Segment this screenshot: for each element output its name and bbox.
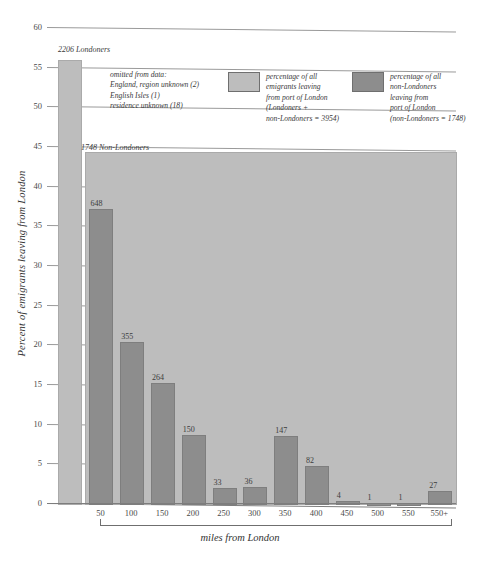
x-tick-50: 50 (85, 508, 115, 518)
omitted-line-3: residence unknown (18) (110, 101, 199, 111)
legend0-line3: from port of London (266, 93, 339, 103)
x-tick-150: 150 (147, 508, 177, 518)
bar-200 (182, 435, 206, 505)
x-tick-250: 250 (209, 508, 239, 518)
x-tick-100: 100 (116, 508, 146, 518)
gridline-60 (47, 27, 456, 32)
y-tick-10: 10 (20, 419, 42, 429)
legend-label-all-emigrants: percentage of all emigrants leaving from… (266, 72, 339, 124)
bar-value-500: 1 (368, 493, 372, 502)
legend1-line3: leaving from (390, 93, 466, 103)
x-tick-200: 200 (178, 508, 208, 518)
legend-swatch-all-emigrants (228, 72, 260, 92)
omitted-line-1: England, region unknown (2) (110, 80, 199, 90)
bar-value-250: 33 (214, 478, 222, 487)
bar-value-100: 355 (121, 332, 133, 341)
y-tick-5: 5 (20, 458, 42, 468)
y-tick-50: 50 (20, 101, 42, 111)
bar-50 (89, 209, 113, 505)
plot-area: 051015202530354045505560 648355264150333… (0, 0, 478, 561)
omitted-from-data-note: omitted from data: England, region unkno… (110, 70, 199, 112)
y-tick-60: 60 (20, 22, 42, 32)
legend0-line4: (Londoners + (266, 103, 339, 113)
y-axis-title: Percent of emigrants leaving from London (16, 139, 27, 389)
x-tick-300: 300 (239, 508, 269, 518)
bar-value-150: 264 (152, 373, 164, 382)
londoners-total-bar-rect (58, 60, 82, 505)
bar-150 (151, 383, 175, 505)
legend1-line5: (non-Londoners = 1748) (390, 114, 466, 124)
bar-400 (305, 466, 329, 505)
chart-figure: 051015202530354045505560 648355264150333… (0, 0, 478, 561)
legend1-line1: percentage of all (390, 72, 466, 82)
bar-350 (274, 436, 298, 505)
bar-100 (120, 342, 144, 505)
bar-value-300: 36 (244, 477, 252, 486)
legend-label-non-londoners: percentage of all non-Londoners leaving … (390, 72, 466, 124)
legend0-line1: percentage of all (266, 72, 339, 82)
legend1-line4: port of London (390, 103, 466, 113)
legend1-line2: non-Londoners (390, 82, 466, 92)
bar-value-350: 147 (275, 426, 287, 435)
x-tick-550+: 550+ (424, 508, 454, 518)
x-tick-550: 550 (393, 508, 423, 518)
legend0-line5: non-Londoners = 3954) (266, 114, 339, 124)
bar-value-50: 648 (90, 199, 102, 208)
x-axis-bracket (100, 519, 452, 526)
legend-swatch-non-londoners (352, 72, 384, 92)
x-tick-450: 450 (332, 508, 362, 518)
x-axis-title: miles from London (150, 532, 330, 543)
x-tick-500: 500 (363, 508, 393, 518)
omitted-title: omitted from data: (110, 70, 199, 80)
bar-value-450: 4 (337, 491, 341, 500)
x-tick-350: 350 (270, 508, 300, 518)
omitted-line-2: English Isles (1) (110, 91, 199, 101)
x-tick-400: 400 (301, 508, 331, 518)
londoners-total-label: 2206 Londoners (58, 45, 110, 54)
bar-value-200: 150 (183, 425, 195, 434)
x-axis-baseline (47, 503, 456, 504)
legend0-line2: emigrants leaving (266, 82, 339, 92)
bar-value-550: 1 (398, 493, 402, 502)
y-tick-55: 55 (20, 62, 42, 72)
non-londoners-total-label: 1748 Non-Londoners (81, 143, 149, 152)
y-tick-0: 0 (20, 498, 42, 508)
bar-value-400: 82 (306, 456, 314, 465)
bar-value-550+: 27 (429, 481, 437, 490)
